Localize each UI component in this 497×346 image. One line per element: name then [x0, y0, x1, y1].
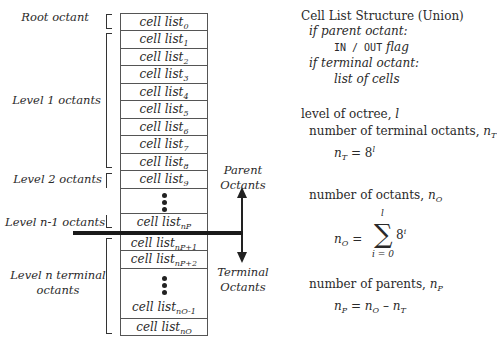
if-parent-text: if parent octant: [309, 24, 408, 38]
sigma-icon: ∑ [374, 221, 393, 247]
cell-list-row: cell list8 [121, 154, 207, 171]
bracket-level2 [106, 173, 112, 188]
list-of-cells-text: list of cells [334, 72, 400, 86]
cell-list-row: cell list3 [121, 66, 207, 84]
cell-list-row: cell list0 [121, 14, 207, 31]
cell-list-row: cell list2 [121, 49, 207, 66]
flag-line: IN / OUT flag [334, 40, 409, 54]
sum-lower-limit: i = 0 [372, 249, 394, 259]
cell-list-row: cell list1 [121, 31, 207, 49]
bracket-root [106, 14, 112, 29]
cell-list-row: cell list6 [121, 119, 207, 136]
structure-title: Cell List Structure (Union) [301, 9, 464, 23]
label-level1-octants: Level 1 octants [5, 93, 101, 107]
label-parent-octants: Parent Octants [212, 163, 274, 193]
cell-list-row: cell listnO-1 [121, 269, 207, 319]
parent-terminal-divider [73, 231, 243, 235]
arrow-up-shaft [241, 195, 243, 231]
bracket-level1 [106, 33, 112, 168]
label-level-n-line2: octants [10, 283, 106, 298]
cell-list-row: cell listnO [121, 319, 207, 336]
cell-list-row: cell list5 [121, 101, 207, 119]
cell-list-row: cell listnP+1 [121, 236, 207, 251]
bracket-level-n1 [106, 215, 112, 228]
cell-list-row: cell list9 [121, 171, 207, 189]
sum-upper-limit: l [381, 208, 384, 218]
label-level2-octants: Level 2 octants [5, 172, 102, 186]
vertical-ellipsis-icon [121, 269, 207, 300]
label-root-octant: Root octant [5, 10, 89, 24]
parent-line1: Parent [212, 163, 274, 178]
cell-list-row: cell list7 [121, 136, 207, 154]
label-terminal-octants: Terminal Octants [210, 265, 276, 295]
formula-nP: nP = nO – nT [334, 299, 406, 313]
label-level-n-line1: Level n terminal [10, 268, 106, 283]
label-level-n1-octants: Level n-1 octants [5, 215, 102, 229]
cell-list-row: cell listnP [121, 214, 207, 232]
arrow-down-shaft [241, 235, 243, 253]
level-of-octree: level of octree, l [301, 107, 399, 121]
formula-nT: nT = 8l [334, 146, 375, 160]
formula-nO-lhs: nO = [334, 232, 362, 246]
arrow-down-icon [237, 252, 247, 263]
flag-text: flag [386, 40, 409, 54]
cell-list-row: cell listnP+2 [121, 251, 207, 269]
parent-line2: Octants [212, 178, 274, 193]
sum-term: 8i [396, 228, 406, 242]
vertical-ellipsis-icon [121, 191, 207, 214]
cell-list-table: cell list0 cell list1 cell list2 cell li… [120, 13, 208, 336]
number-of-octants: number of octants, nO [309, 188, 442, 202]
label-level-n-terminal: Level n terminal octants [10, 268, 106, 298]
cell-list-row: cell list4 [121, 84, 207, 101]
number-of-parents: number of parents, nP [309, 277, 443, 291]
ellipsis-row [121, 189, 207, 214]
if-terminal-text: if terminal octant: [309, 56, 419, 70]
number-terminal-octants: number of terminal octants, nT [309, 124, 496, 138]
bracket-level-n [106, 238, 112, 334]
terminal-line1: Terminal [210, 265, 276, 280]
in-out-text: IN / OUT [334, 42, 382, 53]
terminal-line2: Octants [210, 280, 276, 295]
